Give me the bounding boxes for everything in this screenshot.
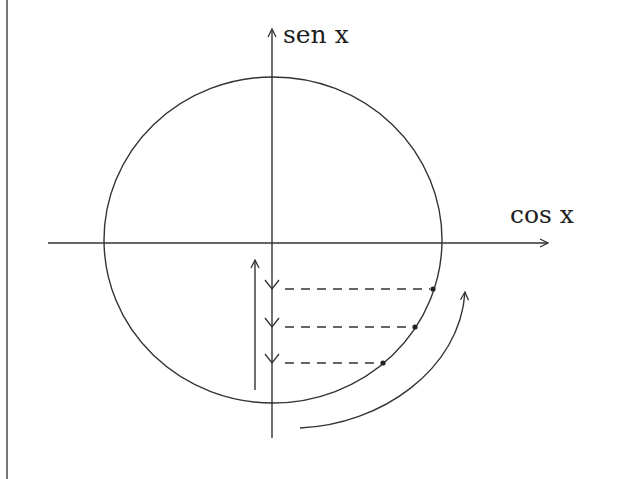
projection-lines (285, 289, 430, 363)
circle-points (380, 286, 435, 365)
sin-axis-label: sen x (283, 22, 349, 47)
unit-circle (104, 77, 442, 403)
point-dot (430, 286, 435, 291)
curved-rotation-arrow (300, 292, 465, 428)
unit-circle-diagram (0, 0, 622, 479)
point-dot (380, 360, 385, 365)
point-dot (412, 324, 417, 329)
cos-axis-label: cos x (510, 202, 574, 227)
